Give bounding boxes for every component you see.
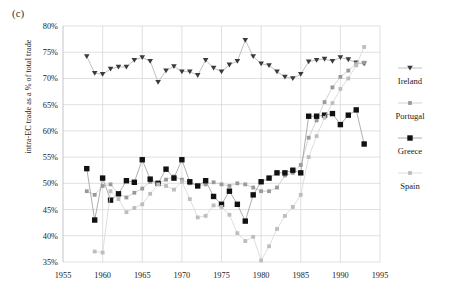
data-point-marker <box>243 182 247 186</box>
data-point-marker <box>140 202 144 206</box>
series-line-greece <box>87 110 364 221</box>
data-point-marker <box>283 214 287 218</box>
data-point-marker <box>140 187 144 191</box>
data-point-marker <box>164 184 168 188</box>
data-point-marker <box>407 135 412 140</box>
data-point-marker <box>132 191 136 195</box>
y-tick-label: 45% <box>43 206 58 215</box>
data-point-marker <box>275 186 279 190</box>
data-point-marker <box>204 214 208 218</box>
data-point-marker <box>346 112 351 117</box>
data-point-marker <box>163 68 169 73</box>
data-point-marker <box>139 55 145 60</box>
data-point-marker <box>92 217 97 222</box>
data-point-marker <box>323 100 327 104</box>
x-tick-label: 1975 <box>213 271 230 280</box>
data-point-marker <box>132 180 137 185</box>
y-tick-label: 70% <box>43 74 58 83</box>
x-tick-label: 1970 <box>174 271 191 280</box>
data-point-marker <box>330 59 336 64</box>
y-tick-label: 35% <box>43 258 58 267</box>
data-point-marker <box>156 182 160 186</box>
y-tick-label: 75% <box>43 48 58 57</box>
data-point-marker <box>212 203 216 207</box>
data-point-marker <box>362 61 366 65</box>
data-point-marker <box>84 166 89 171</box>
data-point-marker <box>116 191 121 196</box>
y-tick-label: 50% <box>43 179 58 188</box>
x-tick-label: 1990 <box>332 271 349 280</box>
plot-canvas: 35%40%45%50%55%60%65%70%75%80%1955196019… <box>0 0 462 290</box>
data-point-marker <box>125 210 129 214</box>
data-point-marker <box>100 72 106 77</box>
data-point-marker <box>275 227 279 231</box>
data-point-marker <box>307 136 311 140</box>
data-point-marker <box>108 197 113 202</box>
y-tick-label: 40% <box>43 232 58 241</box>
data-point-marker <box>187 179 192 184</box>
data-point-marker <box>100 175 105 180</box>
data-point-marker <box>346 57 352 62</box>
data-point-marker <box>163 166 168 171</box>
data-point-marker <box>274 69 280 74</box>
data-point-marker <box>108 67 114 72</box>
data-point-marker <box>290 168 295 173</box>
data-point-marker <box>331 85 335 89</box>
data-point-marker <box>282 170 287 175</box>
data-point-marker <box>155 80 161 85</box>
data-point-marker <box>330 111 335 116</box>
data-point-marker <box>195 73 201 78</box>
chart-figure: (c) intra-EC trade as a % of total trade… <box>0 0 462 290</box>
data-point-marker <box>227 189 232 194</box>
data-point-marker <box>171 64 177 69</box>
data-point-marker <box>171 175 176 180</box>
data-point-marker <box>408 171 412 175</box>
data-point-marker <box>93 193 97 197</box>
y-tick-label: 80% <box>43 22 58 31</box>
data-point-marker <box>266 175 271 180</box>
data-point-marker <box>338 87 342 91</box>
data-point-marker <box>235 202 240 207</box>
y-tick-label: 60% <box>43 127 58 136</box>
data-point-marker <box>338 75 342 79</box>
data-point-marker <box>362 45 366 49</box>
data-point-marker <box>220 182 224 186</box>
series-line-spain <box>95 47 364 260</box>
y-tick-label: 65% <box>43 101 58 110</box>
data-point-marker <box>235 231 239 235</box>
data-point-marker <box>109 182 113 186</box>
data-point-marker <box>84 54 90 59</box>
data-point-marker <box>117 197 121 201</box>
legend-label-greece: Greece <box>398 146 423 156</box>
data-point-marker <box>132 206 136 210</box>
data-point-marker <box>196 216 200 220</box>
data-point-marker <box>408 101 412 105</box>
data-point-marker <box>291 205 295 209</box>
data-point-marker <box>212 180 216 184</box>
data-point-marker <box>125 196 129 200</box>
data-point-marker <box>306 59 312 64</box>
data-point-marker <box>180 180 184 184</box>
data-point-marker <box>211 194 216 199</box>
x-tick-label: 1965 <box>134 271 151 280</box>
data-point-marker <box>361 141 366 146</box>
data-point-marker <box>258 179 263 184</box>
data-point-marker <box>298 72 304 77</box>
data-point-marker <box>93 250 97 254</box>
x-tick-label: 1960 <box>94 271 111 280</box>
series-line-ireland <box>87 40 364 82</box>
data-point-marker <box>148 192 152 196</box>
data-point-marker <box>274 170 279 175</box>
data-point-marker <box>147 59 153 64</box>
data-point-marker <box>323 116 327 120</box>
data-point-marker <box>298 170 303 175</box>
data-point-marker <box>354 107 359 112</box>
data-point-marker <box>251 235 255 239</box>
data-point-marker <box>220 205 224 209</box>
data-point-marker <box>307 155 311 159</box>
data-point-marker <box>259 259 263 263</box>
x-tick-label: 1995 <box>372 271 389 280</box>
data-point-marker <box>228 184 232 188</box>
series-line-portugal <box>87 63 364 198</box>
data-point-marker <box>203 178 208 183</box>
